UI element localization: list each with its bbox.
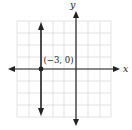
- y-axis-up-arrow-icon: [73, 11, 79, 18]
- point-neg3-0: [39, 67, 44, 72]
- point-label: (−3, 0): [44, 55, 74, 65]
- x-axis-right-arrow-icon: [113, 66, 120, 72]
- y-axis-down-arrow-icon: [73, 119, 79, 126]
- x-axis-left-arrow-icon: [8, 66, 15, 72]
- coordinate-plane: (−3, 0) x y: [0, 0, 132, 130]
- y-axis-label: y: [69, 0, 76, 10]
- x-axis-label: x: [123, 63, 129, 74]
- line-up-arrow-icon: [38, 22, 44, 30]
- line-down-arrow-icon: [38, 108, 44, 116]
